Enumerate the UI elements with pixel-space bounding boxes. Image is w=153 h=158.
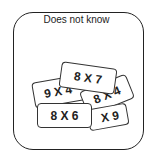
card-8x6: 8 X 6 xyxy=(37,103,92,128)
title: Does not know xyxy=(0,14,153,25)
